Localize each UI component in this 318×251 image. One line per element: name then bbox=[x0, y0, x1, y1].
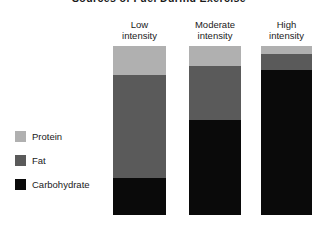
bar-segment-protein bbox=[189, 46, 241, 66]
bar-group: Highintensity bbox=[261, 46, 312, 215]
bar-category-label: Lowintensity bbox=[122, 20, 157, 41]
bar-segment-carbohydrate bbox=[189, 120, 241, 215]
bar-stack bbox=[113, 46, 166, 215]
bar-category-label-line1: Moderate bbox=[195, 20, 235, 31]
legend-label: Fat bbox=[32, 155, 46, 166]
bar-segment-fat bbox=[189, 66, 241, 120]
bar-stack bbox=[261, 46, 312, 215]
legend-label: Protein bbox=[32, 131, 62, 142]
legend-swatch-icon bbox=[15, 179, 26, 190]
bar-segment-fat bbox=[261, 54, 312, 69]
bar-category-label-line2: intensity bbox=[195, 31, 235, 42]
legend-label: Carbohydrate bbox=[32, 179, 90, 190]
bar-segment-carbohydrate bbox=[113, 178, 166, 215]
legend-item: Protein bbox=[15, 131, 90, 142]
legend-swatch-icon bbox=[15, 155, 26, 166]
legend-swatch-icon bbox=[15, 131, 26, 142]
bar-category-label-line1: Low bbox=[122, 20, 157, 31]
bar-category-label-line2: intensity bbox=[269, 31, 304, 42]
bar-group: Moderateintensity bbox=[189, 46, 241, 215]
bar-segment-protein bbox=[261, 46, 312, 54]
bar-category-label: Moderateintensity bbox=[195, 20, 235, 41]
bar-category-label-line2: intensity bbox=[122, 31, 157, 42]
bar-group: Lowintensity bbox=[113, 46, 166, 215]
bar-category-label-line1: High bbox=[269, 20, 304, 31]
bar-segment-protein bbox=[113, 46, 166, 75]
chart-plot-area: LowintensityModerateintensityHighintensi… bbox=[0, 0, 318, 251]
legend-item: Fat bbox=[15, 155, 90, 166]
bar-category-label: Highintensity bbox=[269, 20, 304, 41]
chart-legend: ProteinFatCarbohydrate bbox=[15, 131, 90, 203]
bar-stack bbox=[189, 46, 241, 215]
bar-segment-carbohydrate bbox=[261, 70, 312, 215]
legend-item: Carbohydrate bbox=[15, 179, 90, 190]
bar-segment-fat bbox=[113, 75, 166, 178]
